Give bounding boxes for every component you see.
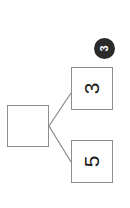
step-badge-label: 3 [99, 45, 110, 51]
diagram-canvas: 3 5 3 [0, 0, 130, 208]
edge-parent-to-child-a [49, 93, 71, 126]
node-child-a[interactable]: 3 [71, 67, 113, 110]
node-child-a-label: 3 [82, 83, 103, 95]
edge-parent-to-child-b [49, 126, 71, 162]
node-child-b[interactable]: 5 [71, 140, 113, 183]
node-child-b-label: 5 [82, 156, 103, 168]
step-badge[interactable]: 3 [94, 38, 115, 59]
node-parent[interactable] [7, 105, 49, 147]
